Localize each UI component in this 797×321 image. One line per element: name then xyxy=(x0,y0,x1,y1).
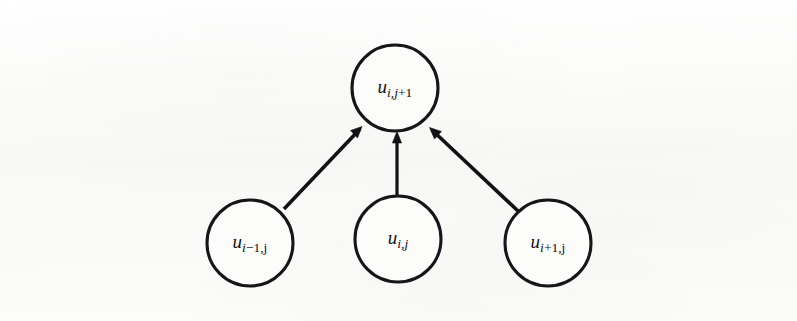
arrow-middle-to-top xyxy=(392,132,401,198)
node-u-i-minus-1-j: ui−1,j xyxy=(207,200,293,286)
arrow-left-to-top xyxy=(284,127,362,210)
arrow-right-to-top xyxy=(430,128,519,212)
stencil-figure: ui,j+1 ui−1,j ui,j ui+1,j xyxy=(0,0,797,321)
node-u-i-plus-1-j: ui+1,j xyxy=(505,200,591,286)
node-u-i-j-plus-1: ui,j+1 xyxy=(352,45,438,131)
arrow-right-to-top-shaft xyxy=(432,130,518,211)
stencil-diagram: ui,j+1 ui−1,j ui,j ui+1,j xyxy=(0,0,797,321)
arrow-left-to-top-shaft xyxy=(284,129,360,209)
node-u-i-j: ui,j xyxy=(355,196,441,282)
arrow-middle-to-top-head xyxy=(392,132,401,144)
node-layer: ui,j+1 ui−1,j ui,j ui+1,j xyxy=(207,45,591,286)
